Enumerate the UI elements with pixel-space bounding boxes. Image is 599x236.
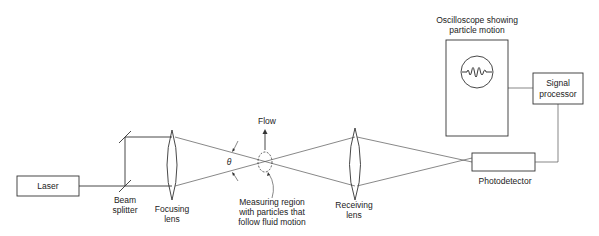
signal-processor-label-1: Signal <box>546 78 570 88</box>
photodetector-to-processor-wire <box>535 104 558 162</box>
measuring-region-leader <box>269 174 273 198</box>
receiving-lens-shape <box>350 128 361 200</box>
oscilloscope: Oscilloscope showing particle motion <box>436 15 518 136</box>
focusing-lens: Focusing lens <box>155 130 190 224</box>
doppler-burst-waveform-icon <box>462 68 492 78</box>
received-beam-upper <box>357 137 472 162</box>
measuring-region-label-2: with particles that <box>238 207 305 217</box>
flow-indicator: Flow <box>258 116 277 150</box>
receiving-lens-label-2: lens <box>346 210 362 220</box>
signal-processor-label-2: processor <box>539 89 576 99</box>
ldv-diagram: Laser Beam splitter Focusing lens θ Flow <box>0 0 599 236</box>
flow-arrowhead <box>263 129 268 134</box>
measuring-region-label-3: follow fluid motion <box>238 217 306 227</box>
photodetector: Photodetector <box>472 153 535 186</box>
received-beam-lower <box>357 158 472 186</box>
receiving-lens-label-1: Receiving <box>335 200 373 210</box>
focusing-lens-label-1: Focusing <box>155 204 190 214</box>
angle-indicator: θ <box>227 141 238 181</box>
oscilloscope-label-1: Oscilloscope showing <box>436 15 518 25</box>
focusing-lens-label-2: lens <box>164 214 180 224</box>
photodetector-label: Photodetector <box>479 176 532 186</box>
flow-label: Flow <box>258 116 277 126</box>
receiving-lens: Receiving lens <box>335 128 373 220</box>
measuring-region <box>258 152 272 172</box>
laser: Laser <box>17 176 79 196</box>
laser-label: Laser <box>37 181 58 191</box>
beam-splitter-label-1: Beam <box>114 195 136 205</box>
photodetector-box <box>472 153 535 171</box>
focusing-lens-shape <box>167 130 177 200</box>
measuring-region-label: Measuring region with particles that fol… <box>238 197 306 227</box>
measuring-region-label-1: Measuring region <box>239 197 305 207</box>
signal-processor: Signal processor <box>533 73 583 104</box>
beam-splitter-label-2: splitter <box>112 205 137 215</box>
oscilloscope-label-2: particle motion <box>449 25 505 35</box>
theta-label: θ <box>227 157 232 167</box>
